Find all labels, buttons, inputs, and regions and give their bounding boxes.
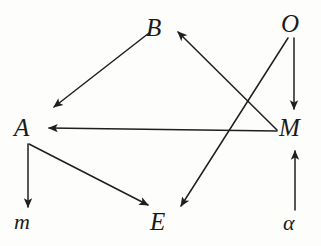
edge-A-to-E xyxy=(29,144,148,205)
node-label-m: m xyxy=(14,211,30,233)
diagram-canvas: B O A M m E α xyxy=(0,0,321,246)
node-label-M: M xyxy=(279,115,300,140)
node-label-E: E xyxy=(150,209,165,234)
edge-M-to-A xyxy=(49,128,277,131)
edge-O-to-E xyxy=(181,38,288,206)
node-label-O: O xyxy=(281,11,299,36)
edge-B-to-A xyxy=(54,33,149,107)
edge-group xyxy=(28,32,295,210)
edge-M-to-B xyxy=(178,32,277,130)
node-label-B: B xyxy=(146,15,161,40)
node-label-A: A xyxy=(14,115,29,140)
node-label-alpha: α xyxy=(283,212,295,234)
